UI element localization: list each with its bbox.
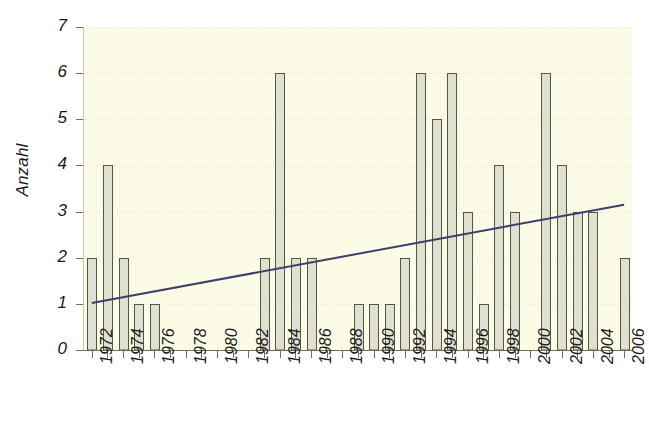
x-tick-label: 1982 (254, 328, 272, 364)
x-tick-mark (186, 351, 187, 358)
x-tick-label: 1998 (505, 328, 523, 364)
x-tick-label: 1972 (98, 328, 116, 364)
x-tick-mark (342, 351, 343, 358)
x-tick-label: 1980 (223, 328, 241, 364)
y-axis-line (83, 27, 84, 351)
bar (401, 259, 410, 351)
y-tick-label: 3 (27, 201, 67, 221)
x-tick-label: 1988 (348, 328, 366, 364)
x-tick-mark (248, 351, 249, 358)
x-tick-mark (468, 351, 469, 358)
y-tick-label: 4 (27, 154, 67, 174)
x-tick-mark (123, 351, 124, 358)
bar (495, 166, 504, 351)
x-tick-label: 1990 (380, 328, 398, 364)
x-tick-mark (405, 351, 406, 358)
bar (589, 213, 598, 351)
x-tick-mark (562, 351, 563, 358)
bar (120, 259, 129, 351)
x-tick-label: 2004 (599, 328, 617, 364)
x-tick-label: 2000 (536, 328, 554, 364)
bar (104, 166, 113, 351)
bar (542, 74, 551, 351)
x-tick-label: 1996 (474, 328, 492, 364)
y-tick-label: 1 (27, 293, 67, 313)
y-tick-label: 5 (27, 108, 67, 128)
x-tick-label: 1978 (192, 328, 210, 364)
bar (417, 74, 426, 351)
x-tick-mark (624, 351, 625, 358)
y-tick-label: 0 (27, 339, 67, 359)
x-tick-mark (374, 351, 375, 358)
y-tick-label: 7 (27, 16, 67, 36)
x-tick-mark (436, 351, 437, 358)
bar (308, 259, 317, 351)
x-tick-label: 1984 (286, 328, 304, 364)
bar (433, 120, 442, 351)
x-tick-mark (154, 351, 155, 358)
plot-graphics (84, 27, 632, 350)
bar (151, 305, 160, 351)
x-tick-label: 1976 (160, 328, 178, 364)
x-tick-label: 2006 (630, 328, 648, 364)
x-tick-label: 1992 (411, 328, 429, 364)
x-tick-mark (499, 351, 500, 358)
bar (370, 305, 379, 351)
x-tick-label: 1994 (442, 328, 460, 364)
x-tick-mark (92, 351, 93, 358)
bar (621, 259, 630, 351)
bar (88, 259, 97, 351)
x-tick-label: 2002 (568, 328, 586, 364)
y-tick-label: 2 (27, 247, 67, 267)
x-tick-mark (311, 351, 312, 358)
bar (276, 74, 285, 351)
y-tick-label: 6 (27, 62, 67, 82)
bar (558, 166, 567, 351)
x-tick-mark (593, 351, 594, 358)
bar (448, 74, 457, 351)
x-tick-label: 1986 (317, 328, 335, 364)
plot-area (84, 27, 632, 350)
x-tick-label: 1974 (129, 328, 147, 364)
chart-container: Anzahl 01234567 197219741976197819801982… (0, 0, 649, 424)
x-tick-mark (530, 351, 531, 358)
x-tick-mark (280, 351, 281, 358)
x-tick-mark (217, 351, 218, 358)
